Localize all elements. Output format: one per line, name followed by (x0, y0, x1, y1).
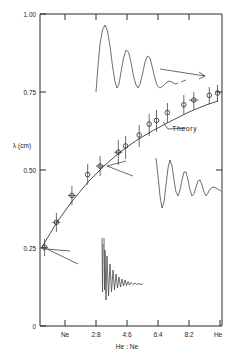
data-point (123, 136, 128, 159)
y-tick-label-1: 0.25 (24, 245, 37, 252)
data-point (154, 110, 159, 132)
x-axis-title: He : Ne (116, 343, 139, 350)
y-tick-label-2: 0.50 (24, 167, 37, 174)
theory-annotation-label: Theory (172, 125, 197, 133)
y-tick-label-3: 0.75 (24, 89, 37, 96)
data-point (165, 103, 170, 123)
y-axis-ticks (40, 14, 46, 326)
scatter-plot-svg: 0 0.25 0.50 0.75 1.00 λ (cm) (0, 0, 246, 364)
bottom-inset-oscillogram (102, 238, 143, 300)
theory-curve (42, 101, 218, 247)
y-tick-label-0: 0 (32, 323, 36, 330)
data-point (182, 95, 187, 114)
data-point (41, 239, 48, 256)
figure-panel: 0 0.25 0.50 0.75 1.00 λ (cm) (0, 0, 246, 364)
data-point (52, 213, 60, 232)
data-point (215, 85, 220, 102)
data-point (137, 125, 142, 147)
x-tick-label-2: 4:6 (123, 331, 132, 338)
top-axis-ticks (65, 14, 189, 20)
data-point (68, 186, 76, 205)
right-axis-ticks (216, 92, 222, 170)
data-point (114, 140, 123, 165)
annotation-leaders (47, 69, 205, 264)
data-point (85, 164, 90, 185)
x-axis-ticks (65, 320, 220, 326)
x-tick-label-5: He (214, 331, 223, 338)
middle-right-inset-oscillogram (156, 158, 221, 208)
x-tick-label-3: 6:4 (154, 331, 163, 338)
top-inset-oscillogram (96, 25, 186, 92)
data-point (189, 92, 199, 110)
data-point (207, 87, 212, 104)
x-axis-tick-labels: Ne 2:8 4:6 6:4 8:2 He (61, 331, 223, 338)
y-axis-tick-labels: 0 0.25 0.50 0.75 1.00 (24, 11, 37, 330)
x-tick-label-4: 8:2 (185, 331, 194, 338)
y-axis-title: λ (cm) (13, 142, 31, 150)
x-tick-label-0: Ne (61, 331, 70, 338)
y-tick-label-4: 1.00 (24, 11, 37, 18)
x-tick-label-1: 2:8 (92, 331, 101, 338)
data-point (147, 114, 152, 136)
